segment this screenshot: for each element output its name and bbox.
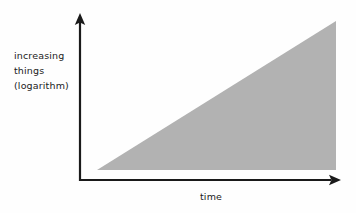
x-axis-label: time <box>200 189 222 204</box>
y-axis-label-line-3: (logarithm) <box>14 80 69 91</box>
y-axis-label-line-1: increasing <box>14 50 64 61</box>
y-axis-label-line-2: things <box>14 65 44 76</box>
growth-area-fill <box>97 21 336 170</box>
chart-plot-area <box>0 0 356 213</box>
chart-figure: increasingthings(logarithm) time <box>0 0 356 213</box>
y-axis-label: increasingthings(logarithm) <box>14 48 69 93</box>
